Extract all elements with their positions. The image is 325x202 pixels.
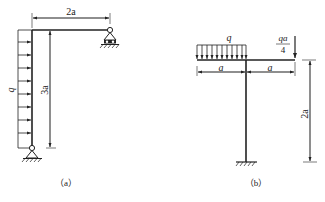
figure-caption-b: （b） bbox=[245, 178, 268, 188]
fixed-support-icon bbox=[236, 162, 257, 166]
dimension-label-right-span: a bbox=[268, 62, 273, 73]
load-label-q-a: q bbox=[5, 88, 16, 93]
point-load-denominator: 4 bbox=[281, 45, 286, 55]
dimension-label-column-b: 2a bbox=[299, 109, 310, 119]
dimension-label-beam: 2a bbox=[66, 6, 76, 17]
figure-caption-a: （a） bbox=[55, 178, 77, 188]
load-label-q-b: q bbox=[227, 32, 232, 43]
distributed-load-b bbox=[197, 45, 246, 59]
point-load-numerator: qa bbox=[279, 33, 289, 43]
dimension-label-left-span: a bbox=[219, 62, 224, 73]
diagram-canvas: q 2a 3a bbox=[0, 0, 325, 202]
figure-b: q qa 4 a a 2a bbox=[197, 32, 317, 188]
dimension-label-column-a: 3a bbox=[39, 85, 50, 95]
distributed-load-a bbox=[18, 30, 32, 148]
figure-a: q 2a 3a bbox=[5, 6, 119, 188]
